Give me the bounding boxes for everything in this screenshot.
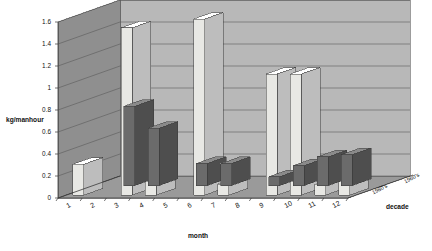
bar-1960s-month-11 [341,148,371,185]
y-axis-tick-0.8: 0.8 [25,106,51,113]
chart-3d-walls [0,0,432,251]
y-axis-tick-1.2: 1.2 [25,62,51,69]
y-axis-tick-0: 0 [25,194,51,201]
y-axis-tick-1.4: 1.4 [25,40,51,47]
chart-plot-area [0,0,432,251]
depth-axis-label: decade [386,203,409,210]
y-axis-tick-0.2: 0.2 [25,172,51,179]
y-axis-label: kg/manhour [6,116,44,123]
y-axis-tick-0.4: 0.4 [25,150,51,157]
y-axis-tick-1.6: 1.6 [25,18,51,25]
x-axis-label: month [188,232,208,239]
y-axis-tick-1: 1 [25,84,51,91]
bar-1960s-month-3 [148,122,178,186]
chart-container: Fishing returns by decade 00.20.40.60.81… [0,0,432,251]
y-axis-tick-0.6: 0.6 [25,128,51,135]
bar-1980s-month-1 [73,158,103,195]
